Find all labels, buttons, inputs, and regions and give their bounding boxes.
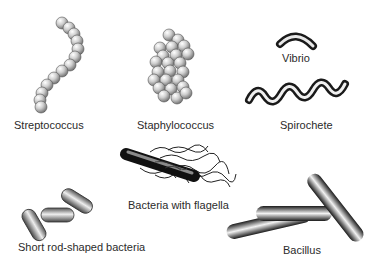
label-bacillus: Bacillus — [283, 245, 321, 256]
label-spirochete: Spirochete — [280, 120, 333, 131]
bacillus-illustration — [225, 171, 366, 245]
streptococcus-illustration — [34, 17, 84, 113]
vibrio-illustration — [280, 36, 313, 46]
label-flagella: Bacteria with flagella — [128, 200, 229, 211]
label-streptococcus: Streptococcus — [14, 120, 84, 131]
flagellated-bacterium-illustration — [126, 145, 236, 187]
label-staphylococcus: Staphylococcus — [137, 120, 214, 131]
short-rod-bacteria-illustration — [19, 186, 95, 243]
label-vibrio: Vibrio — [282, 53, 310, 64]
label-short-rod: Short rod-shaped bacteria — [18, 242, 145, 253]
spirochete-illustration — [249, 82, 345, 101]
staphylococcus-illustration — [148, 29, 194, 104]
